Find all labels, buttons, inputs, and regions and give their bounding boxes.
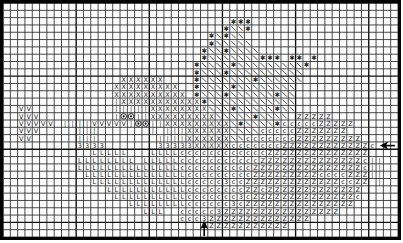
stitch-l: L: [78, 164, 82, 172]
stitch-backslash: [239, 78, 243, 82]
stitch-backslash: [209, 85, 213, 89]
stitch-backslash: [202, 85, 206, 89]
stitch-l: L: [100, 178, 104, 186]
stitch-z: Z: [253, 222, 258, 230]
stitch-backslash: [260, 92, 264, 96]
stitch-c: c: [180, 215, 184, 223]
stitch-star: ✱: [223, 91, 229, 99]
stitch-z: Z: [348, 200, 353, 208]
stitch-|: |: [145, 113, 147, 121]
stitch-star: ✱: [289, 54, 295, 62]
stitch-backslash: [202, 63, 206, 67]
stitch-backslash: [282, 85, 286, 89]
stitch-backslash: [239, 26, 243, 30]
stitch-l: L: [129, 200, 133, 208]
stitch-backslash: [253, 70, 257, 74]
stitch-v: V: [34, 127, 39, 135]
stitch-z: Z: [326, 208, 331, 216]
stitch-backslash: [231, 48, 235, 52]
stitch-star: ✱: [238, 18, 244, 26]
stitch-l: L: [85, 171, 89, 179]
stitch-backslash: [268, 78, 272, 82]
stitch-backslash: [282, 107, 286, 111]
stitch-|: |: [379, 178, 381, 186]
stitch-z: Z: [304, 215, 309, 223]
stitch-backslash: [217, 48, 221, 52]
stitch-backslash: [239, 114, 243, 118]
stitch-star: ✱: [275, 91, 281, 99]
stitch-backslash: [231, 92, 235, 96]
stitch-star: ✱: [275, 105, 281, 113]
stitch-star: ✱: [297, 54, 303, 62]
stitch-backslash: [209, 63, 213, 67]
stitch-c: c: [195, 215, 199, 223]
stitch-v: V: [114, 120, 119, 128]
stitch-star: ✱: [231, 18, 237, 26]
stitch-backslash: [275, 78, 279, 82]
stitch-backslash: [217, 92, 221, 96]
stitch-circle-dot: [130, 115, 132, 117]
stitch-backslash: [246, 100, 250, 104]
cross-stitch-chart: ✱✱✱✱✱✱✱✱✱✱✱✱✱✱✱✱✱✱✱✱✱✱XXXXXX✱✱XXXXXXXXX✱…: [0, 0, 403, 243]
stitch-backslash: [231, 26, 235, 30]
stitch-z: Z: [231, 222, 236, 230]
stitch-star: ✱: [231, 61, 237, 69]
stitch-backslash: [290, 85, 294, 89]
stitch-star: ✱: [223, 69, 229, 77]
stitch-backslash: [246, 92, 250, 96]
stitch-backslash: [217, 100, 221, 104]
stitch-backslash: [260, 63, 264, 67]
stitch-backslash: [217, 85, 221, 89]
stitch-backslash: [268, 107, 272, 111]
stitch-backslash: [268, 70, 272, 74]
stitch-backslash: [268, 85, 272, 89]
stitch-backslash: [202, 70, 206, 74]
stitch-backslash: [253, 121, 257, 125]
stitch-backslash: [239, 34, 243, 38]
stitch-star: ✱: [231, 105, 237, 113]
stitch-backslash: [217, 41, 221, 45]
stitch-l: L: [173, 200, 177, 208]
stitch-|: |: [64, 120, 66, 128]
stitch-l: L: [122, 193, 126, 201]
stitch-backslash: [297, 78, 301, 82]
stitch-backslash: [268, 92, 272, 96]
stitch-backslash: [209, 78, 213, 82]
stitch-backslash: [290, 70, 294, 74]
stitch-circle-dot: [137, 123, 139, 125]
stitch-z: Z: [246, 222, 251, 230]
stitch-backslash: [246, 129, 250, 133]
stitch-backslash: [224, 78, 228, 82]
stitch-backslash: [224, 114, 228, 118]
stitch-backslash: [253, 85, 257, 89]
stitch-backslash: [217, 34, 221, 38]
stitch-z: Z: [319, 208, 324, 216]
stitch-z: Z: [297, 215, 302, 223]
stitch-z: Z: [363, 178, 368, 186]
stitch-backslash: [231, 121, 235, 125]
stitch-|: |: [71, 120, 73, 128]
stitch-backslash: [231, 129, 235, 133]
stitch-backslash: [268, 121, 272, 125]
stitch-backslash: [224, 100, 228, 104]
stitch-backslash: [260, 121, 264, 125]
stitch-backslash: [260, 100, 264, 104]
stitch-backslash: [282, 100, 286, 104]
stitch-star: ✱: [245, 25, 251, 33]
stitch-3: 3: [85, 142, 89, 150]
stitch-backslash: [224, 41, 228, 45]
stitch-star: ✱: [253, 113, 259, 121]
stitch-backslash: [231, 114, 235, 118]
stitch-backslash: [268, 63, 272, 67]
stitch-backslash: [297, 70, 301, 74]
stitch-backslash: [253, 107, 257, 111]
stitch-|: |: [371, 171, 373, 179]
stitch-c: c: [371, 142, 375, 150]
stitch-3: 3: [78, 142, 82, 150]
stitch-backslash: [253, 92, 257, 96]
stitch-backslash: [246, 78, 250, 82]
stitch-z: Z: [209, 222, 214, 230]
stitch-backslash: [209, 70, 213, 74]
stitch-backslash: [231, 100, 235, 104]
stitch-backslash: [231, 78, 235, 82]
